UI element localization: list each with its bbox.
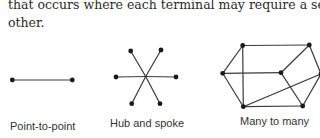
network-node (128, 49, 133, 54)
mesh-link (223, 46, 243, 74)
point-to-point-diagram (10, 78, 75, 83)
network-node (220, 71, 225, 76)
spoke-link (146, 50, 161, 77)
network-node (10, 78, 15, 83)
network-node (70, 78, 75, 83)
mesh-link (243, 74, 320, 107)
many-to-many-diagram (220, 43, 320, 110)
mesh-link (223, 73, 244, 106)
network-node (159, 48, 164, 53)
network-node (279, 70, 284, 75)
spoke-link (146, 77, 176, 78)
mesh-link (243, 106, 302, 107)
spoke-link (116, 77, 146, 78)
mesh-link (281, 45, 309, 73)
network-node (174, 75, 179, 80)
spoke-link (132, 77, 146, 104)
hub-and-spoke-label: Hub and spoke (110, 117, 184, 129)
network-node (114, 75, 119, 80)
mesh-link (243, 46, 244, 107)
network-node (129, 101, 134, 106)
spoke-link (146, 77, 160, 104)
mesh-link (243, 45, 310, 46)
network-node (307, 43, 312, 48)
spoke-link (131, 51, 146, 77)
network-node (241, 104, 246, 109)
network-node (158, 101, 163, 106)
many-to-many-label: Many to many (240, 115, 309, 127)
hub-and-spoke-diagram (114, 48, 179, 107)
mesh-link (309, 45, 320, 74)
network-node (300, 104, 305, 109)
mesh-link (223, 73, 281, 74)
mesh-link (303, 74, 320, 106)
network-node (240, 43, 245, 48)
point-to-point-label: Point-to-point (10, 120, 75, 132)
